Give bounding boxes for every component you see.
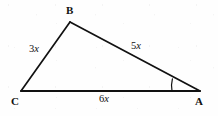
- geometry-figure: B C A 3x 5x 6x: [0, 0, 218, 116]
- vertex-label-b: B: [66, 5, 74, 16]
- vertex-label-a: A: [195, 96, 203, 107]
- side-length-label-ba: 5x: [131, 41, 141, 52]
- vertex-label-c: C: [11, 96, 19, 107]
- side-length-variable-ca: x: [104, 93, 109, 104]
- side-length-variable-ba: x: [136, 40, 141, 51]
- triangle-side-cb: [21, 22, 70, 91]
- side-length-label-cb: 3x: [29, 44, 39, 55]
- side-length-label-ca: 6x: [99, 94, 109, 105]
- side-length-variable-cb: x: [34, 43, 39, 54]
- triangle-diagram-svg: [0, 0, 218, 116]
- triangle-side-ba: [70, 22, 200, 91]
- angle-arc-a: [172, 79, 173, 91]
